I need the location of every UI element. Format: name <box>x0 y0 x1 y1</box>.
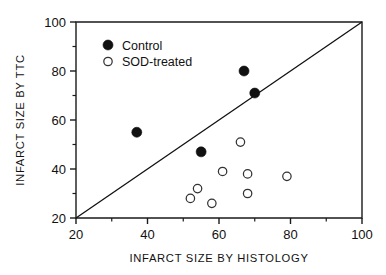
data-point-control <box>196 147 206 157</box>
data-point-sod-treated <box>186 194 194 202</box>
x-tick-label: 20 <box>69 227 83 242</box>
data-point-sod-treated <box>193 184 201 192</box>
legend-marker-sod-treated <box>104 57 112 65</box>
x-tick-label: 100 <box>351 227 373 242</box>
x-tick-label: 60 <box>212 227 226 242</box>
legend-marker-control <box>103 40 113 50</box>
data-point-sod-treated <box>243 189 251 197</box>
y-tick-label: 60 <box>52 113 66 128</box>
data-point-sod-treated <box>283 172 291 180</box>
identity-line <box>76 22 362 218</box>
data-point-control <box>250 88 260 98</box>
y-tick-label: 80 <box>52 64 66 79</box>
data-point-control <box>239 66 249 76</box>
legend-label: Control <box>122 39 162 53</box>
data-point-control <box>132 127 142 137</box>
data-point-sod-treated <box>236 138 244 146</box>
y-axis-title: INFARCT SIZE BY TTC <box>14 54 26 185</box>
legend-label: SOD-treated <box>122 55 192 69</box>
data-point-sod-treated <box>243 170 251 178</box>
plot-canvas: 2040608010020406080100 ControlSOD-treate… <box>0 0 386 275</box>
legend: ControlSOD-treated <box>103 39 192 70</box>
identity-line-path <box>76 22 362 218</box>
data-point-sod-treated <box>208 199 216 207</box>
y-tick-label: 20 <box>52 211 66 226</box>
x-tick-label: 40 <box>140 227 154 242</box>
x-axis-title: INFARCT SIZE BY HISTOLOGY <box>129 252 308 264</box>
data-point-sod-treated <box>218 167 226 175</box>
y-tick-label: 40 <box>52 162 66 177</box>
scatter-plot-figure: 2040608010020406080100 ControlSOD-treate… <box>0 0 386 275</box>
y-tick-label: 100 <box>44 15 66 30</box>
x-tick-label: 80 <box>283 227 297 242</box>
